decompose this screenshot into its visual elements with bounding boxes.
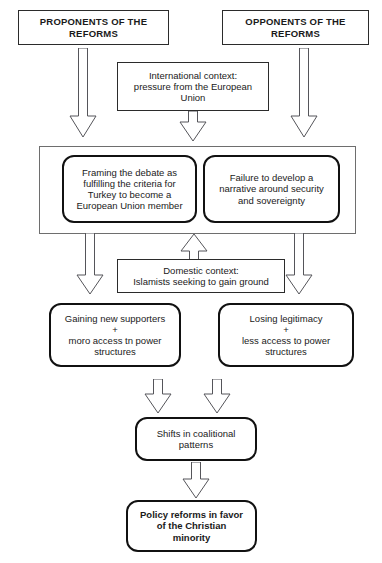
arrow-framing-to-gaining — [76, 233, 104, 295]
arrow-international-context-to-group — [179, 111, 207, 142]
flowchart-canvas: PROPONENTS OF THE REFORMS OPPONENTS OF T… — [0, 0, 382, 563]
node-framing-the-debate: Framing the debate as fulfilling the cri… — [62, 155, 197, 223]
arrow-proponents-to-framing — [69, 48, 97, 138]
node-opponents-text: OPPONENTS OF THE REFORMS — [223, 16, 368, 38]
node-domestic-context: Domestic context: Islamists seeking to g… — [117, 259, 285, 293]
node-policy-text: Policy reforms in favor of the Christian… — [128, 509, 255, 543]
node-gaining-new-supporters: Gaining new supporters + moro access tn … — [49, 303, 181, 367]
node-framing-text: Framing the debate as fulfilling the cri… — [64, 167, 195, 212]
node-shifts-in-coalitional-patterns: Shifts in coalitional patterns — [135, 417, 257, 461]
arrow-opponents-to-failure — [290, 48, 318, 138]
arrow-gaining-to-shifts — [144, 379, 172, 414]
arrow-domestic-context-to-group — [180, 234, 208, 261]
node-losing-text: Losing legitimacy + less access to power… — [220, 313, 352, 358]
node-policy-reforms: Policy reforms in favor of the Christian… — [126, 500, 257, 552]
node-proponents-of-the-reforms: PROPONENTS OF THE REFORMS — [18, 10, 169, 45]
node-gaining-text: Gaining new supporters + moro access tn … — [51, 313, 179, 358]
node-international-context-text: International context: pressure from the… — [118, 70, 268, 104]
node-domestic-context-text: Domestic context: Islamists seeking to g… — [118, 265, 284, 287]
node-opponents-of-the-reforms: OPPONENTS OF THE REFORMS — [222, 10, 369, 45]
node-failure-text: Failure to develop a narrative around se… — [205, 172, 338, 206]
node-failure-to-develop-narrative: Failure to develop a narrative around se… — [203, 155, 340, 223]
node-losing-legitimacy: Losing legitimacy + less access to power… — [218, 303, 354, 367]
node-proponents-text: PROPONENTS OF THE REFORMS — [19, 16, 168, 38]
node-international-context: International context: pressure from the… — [117, 62, 269, 111]
arrow-losing-to-shifts — [203, 379, 231, 414]
arrow-failure-to-losing — [285, 233, 313, 295]
node-shifts-text: Shifts in coalitional patterns — [137, 428, 255, 450]
arrow-shifts-to-policy — [182, 462, 210, 499]
